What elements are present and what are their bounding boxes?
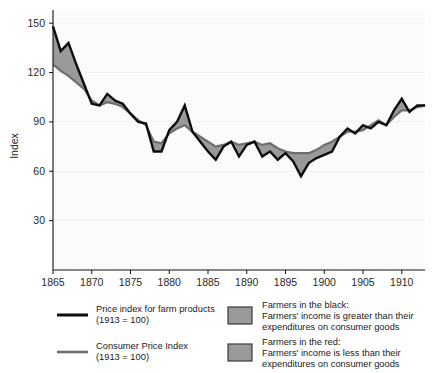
y-tick-label-60: 60 <box>33 165 45 177</box>
y-tick-label-120: 120 <box>27 66 45 78</box>
legend-swatch-farmers-in-the-black <box>228 307 252 324</box>
x-tick-label-1885: 1885 <box>196 276 220 288</box>
x-tick-label-1895: 1895 <box>274 276 298 288</box>
plot-area-background <box>53 10 425 270</box>
legend-label-farmers-red-line2: Farmers' income is less than their <box>262 348 401 358</box>
x-tick-label-1875: 1875 <box>119 276 143 288</box>
x-tick-label-1910: 1910 <box>390 276 414 288</box>
y-tick-label-30: 30 <box>33 214 45 226</box>
x-tick-label-1870: 1870 <box>80 276 104 288</box>
legend-label-farmers-black-line2: Farmers' income is greater than their <box>262 311 414 321</box>
x-tick-label-1890: 1890 <box>235 276 259 288</box>
chart-figure: 306090120150 186518701875188018851890189… <box>0 0 441 373</box>
y-axis-title: Index <box>8 132 20 158</box>
x-tick-label-1865: 1865 <box>41 276 65 288</box>
legend-label-farmers-black-line3: expenditures on consumer goods <box>262 322 400 332</box>
legend-label-farmers-red-line3: expenditures on consumer goods <box>262 359 400 369</box>
x-tick-label-1900: 1900 <box>313 276 337 288</box>
legend-label-consumer-price-index-line2: (1913 = 100) <box>96 352 149 362</box>
legend-label-farmers-red-line1: Farmers in the red: <box>262 337 341 347</box>
legend-label-consumer-price-index-line1: Consumer Price Index <box>96 341 188 351</box>
x-tick-label-1905: 1905 <box>351 276 375 288</box>
legend-label-farmers-black-line1: Farmers in the black: <box>262 300 349 310</box>
y-tick-label-90: 90 <box>33 115 45 127</box>
x-tick-label-1880: 1880 <box>158 276 182 288</box>
legend-swatch-farmers-in-the-red <box>228 344 252 361</box>
legend-label-farm-products-line2: (1913 = 100) <box>96 315 149 325</box>
y-tick-label-150: 150 <box>27 17 45 29</box>
farm-price-index-chart: 306090120150 186518701875188018851890189… <box>0 0 441 373</box>
legend-label-farm-products-line1: Price index for farm products <box>96 304 215 314</box>
